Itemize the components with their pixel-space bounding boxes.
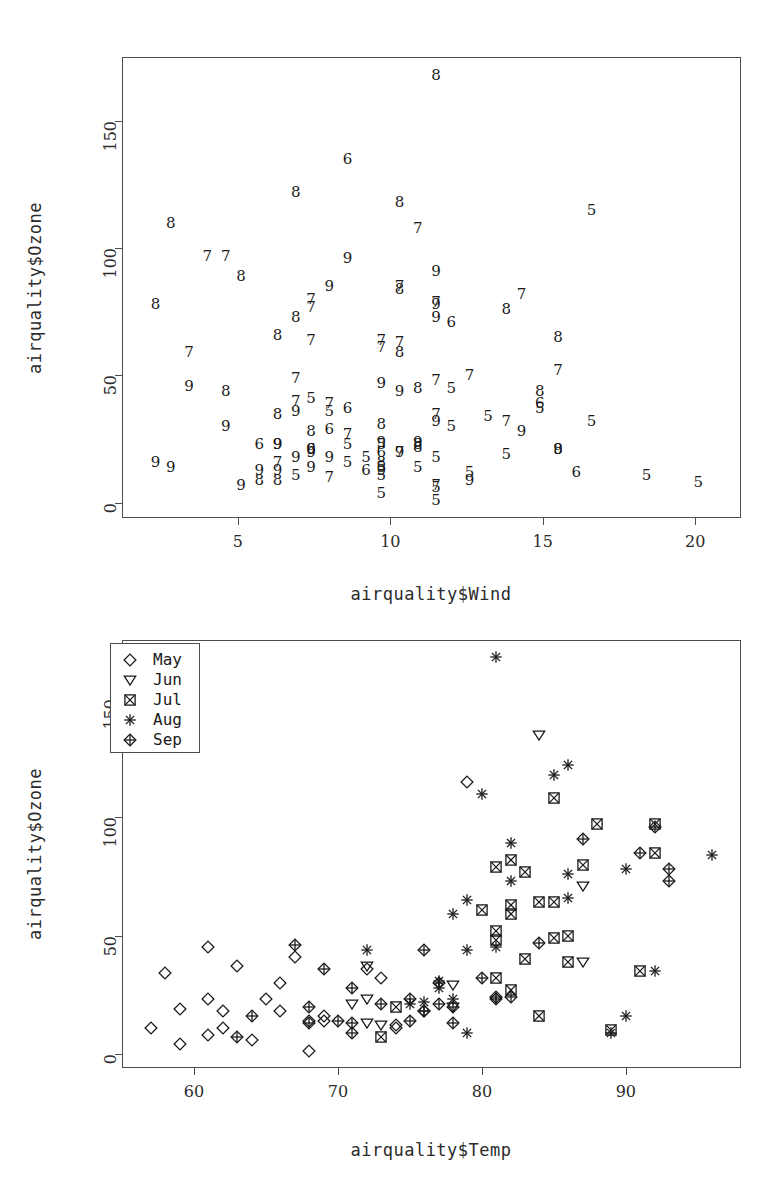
data-point-diamond-plus-icon [317, 962, 330, 975]
legend-item-jun[interactable]: Jun [119, 670, 182, 690]
legend-months: MayJunJulAugSep [110, 643, 200, 753]
data-point-month-jul: 7 [325, 470, 335, 485]
x-tick-mark [482, 1068, 483, 1075]
data-point-diamond-icon [317, 1014, 330, 1027]
data-point-triangle-down-icon [533, 728, 546, 741]
y-tick-label: 0 [101, 503, 120, 513]
legend-item-may[interactable]: May [119, 650, 182, 670]
data-point-month-sep: 9 [273, 437, 283, 452]
data-point-asterisk-icon [562, 868, 575, 881]
data-point-asterisk-icon [562, 759, 575, 772]
data-point-diamond-plus-icon [303, 1000, 316, 1013]
data-point-diamond-icon [216, 1021, 229, 1034]
y-axis-title-1: airquality$Ozone [25, 202, 45, 374]
data-point-diamond-plus-icon [432, 976, 445, 989]
data-point-month-jun: 6 [343, 401, 353, 416]
data-point-triangle-down-icon [346, 998, 359, 1011]
legend-label: Aug [153, 712, 182, 728]
data-point-month-aug: 8 [501, 302, 511, 317]
data-point-month-sep: 9 [395, 444, 405, 459]
data-point-month-jul: 7 [553, 363, 563, 378]
y-tick-label: 0 [101, 1054, 120, 1064]
data-point-diamond-plus-icon [331, 1014, 344, 1027]
data-point-month-may: 5 [291, 467, 301, 482]
data-point-month-jul: 7 [184, 345, 194, 360]
data-point-month-sep: 9 [325, 279, 335, 294]
data-point-month-sep: 9 [431, 414, 441, 429]
data-point-month-jun: 6 [361, 462, 371, 477]
legend-diamond-plus-icon [119, 730, 141, 750]
data-point-asterisk-icon [504, 837, 517, 850]
data-point-asterisk-icon [547, 768, 560, 781]
x-tick-mark [338, 1068, 339, 1075]
data-point-diamond-icon [159, 967, 172, 980]
data-point-diamond-plus-icon [418, 1005, 431, 1018]
data-point-diamond-icon [216, 1005, 229, 1018]
data-point-diamond-icon [375, 972, 388, 985]
data-point-square-x-icon [533, 1009, 546, 1022]
data-point-month-sep: 9 [553, 442, 563, 457]
data-point-square-x-icon [562, 955, 575, 968]
data-point-diamond-plus-icon [648, 820, 661, 833]
data-point-triangle-down-icon [360, 1017, 373, 1030]
data-point-diamond-plus-icon [245, 1009, 258, 1022]
data-point-month-sep: 9 [236, 477, 246, 492]
data-point-month-jul: 7 [343, 426, 353, 441]
data-point-month-jul: 7 [376, 332, 386, 347]
legend-diamond-icon [119, 650, 141, 670]
data-point-diamond-icon [202, 993, 215, 1006]
x-tick-label: 70 [328, 1082, 348, 1101]
data-point-month-may: 5 [642, 467, 652, 482]
data-point-month-sep: 9 [291, 449, 301, 464]
x-tick-label: 10 [380, 532, 400, 551]
y-axis-title-2: airquality$Ozone [25, 768, 45, 940]
x-axis-title-1: airquality$Wind [350, 584, 511, 604]
y-tick-label: 150 [101, 121, 120, 152]
y-tick-label: 100 [101, 817, 120, 848]
data-point-square-x-icon [519, 865, 532, 878]
legend-asterisk-icon [119, 710, 141, 730]
data-point-diamond-plus-icon [403, 993, 416, 1006]
data-point-diamond-icon [389, 1021, 402, 1034]
x-tick-label: 80 [472, 1082, 492, 1101]
data-point-diamond-plus-icon [231, 1031, 244, 1044]
data-point-diamond-icon [245, 1033, 258, 1046]
data-point-square-x-icon [533, 896, 546, 909]
data-point-month-aug: 8 [273, 327, 283, 342]
data-point-month-sep: 9 [151, 454, 161, 469]
data-point-diamond-icon [173, 1002, 186, 1015]
legend-label: Sep [153, 732, 182, 748]
data-point-month-sep: 9 [376, 462, 386, 477]
data-point-month-may: 5 [694, 475, 704, 490]
data-point-diamond-plus-icon [346, 981, 359, 994]
x-tick-label: 90 [616, 1082, 636, 1101]
data-point-diamond-plus-icon [303, 1017, 316, 1030]
data-point-asterisk-icon [490, 941, 503, 954]
x-tick-label: 20 [685, 532, 705, 551]
data-point-month-jul: 7 [431, 477, 441, 492]
legend-item-aug[interactable]: Aug [119, 710, 182, 730]
y-tick-label: 100 [101, 248, 120, 279]
data-point-triangle-down-icon [360, 960, 373, 973]
legend-item-jul[interactable]: Jul [119, 690, 182, 710]
data-point-month-sep: 9 [254, 462, 264, 477]
x-axis-title-2: airquality$Temp [350, 1140, 511, 1160]
legend-item-sep[interactable]: Sep [119, 730, 182, 750]
data-point-asterisk-icon [706, 849, 719, 862]
data-point-triangle-down-icon [447, 979, 460, 992]
data-point-month-sep: 9 [376, 376, 386, 391]
legend-label: Jun [153, 672, 182, 688]
data-point-diamond-plus-icon [375, 998, 388, 1011]
data-point-month-aug: 8 [151, 297, 161, 312]
data-point-month-jun: 6 [447, 314, 457, 329]
data-point-month-sep: 9 [306, 460, 316, 475]
y-tick-label: 50 [101, 936, 120, 956]
data-point-asterisk-icon [490, 650, 503, 663]
x-tick-mark [194, 1068, 195, 1075]
data-point-asterisk-icon [447, 908, 460, 921]
data-point-square-x-icon [490, 861, 503, 874]
data-point-month-aug: 8 [413, 381, 423, 396]
data-point-asterisk-icon [605, 1026, 618, 1039]
legend-triangle-down-icon [119, 670, 141, 690]
data-point-diamond-icon [303, 1045, 316, 1058]
